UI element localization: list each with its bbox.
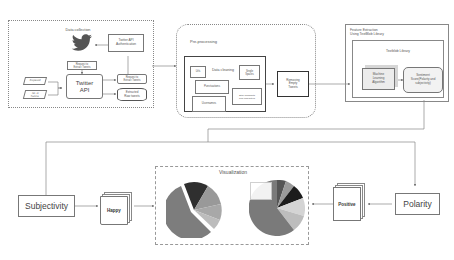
polarity-label: Polarity	[403, 199, 431, 209]
twitter-api-box: Twitter API	[66, 74, 103, 99]
sentiment-score-box: Sentiment Score(Polarity and subjectivit…	[403, 67, 443, 93]
punctuations-box: Punctuations	[195, 80, 229, 94]
happy-doc-stack: Happy	[100, 192, 132, 226]
happy-label: Happy	[107, 208, 121, 213]
subjectivity-box: Subjectivity	[18, 195, 75, 217]
usernames-box: Usernames	[192, 96, 226, 112]
num-tweets-input: No. of Tweets	[23, 90, 47, 99]
textblob-library-title: Textblob Library	[376, 50, 420, 54]
twitter-api-label: Twitter API	[76, 80, 94, 94]
polarity-pie-legend	[250, 182, 272, 200]
stop-words-box: Stop alphabets and characters	[232, 88, 262, 105]
data-collection-title: Data collection	[58, 29, 98, 33]
feature-extraction-title: Feature Extraction Using TextBlob Librar…	[350, 28, 410, 36]
single-spaces-box: Single Spaces	[239, 65, 260, 80]
preprocessing-title: Pre-processing	[190, 40, 225, 44]
keyword-input: Keyword	[23, 77, 47, 85]
raw-tweets-db: Extracted Raw tweets	[117, 88, 147, 101]
polarity-box: Polarity	[395, 193, 440, 215]
request-extract-top: Request to Extract Tweets	[67, 61, 97, 70]
twitter-bird-icon	[71, 34, 93, 52]
visualization-title: Visualization	[210, 171, 256, 175]
twitter-auth-box: Twitter API Authentication	[108, 34, 144, 52]
data-cleaning-label: Data cleaning	[208, 69, 238, 73]
removing-empty-box: Removing Empty Tweets	[277, 71, 309, 97]
subjectivity-label: Subjectivity	[25, 201, 68, 211]
positive-doc-stack: Positive	[333, 183, 365, 223]
positive-label: Positive	[338, 202, 355, 207]
subjectivity-pie-chart	[166, 182, 222, 238]
urls-box: Urls	[190, 66, 206, 78]
request-extract-right: Request to Extract Tweets	[117, 74, 147, 84]
ml-algorithm-box: Machine Learning Algorithm	[362, 68, 395, 90]
